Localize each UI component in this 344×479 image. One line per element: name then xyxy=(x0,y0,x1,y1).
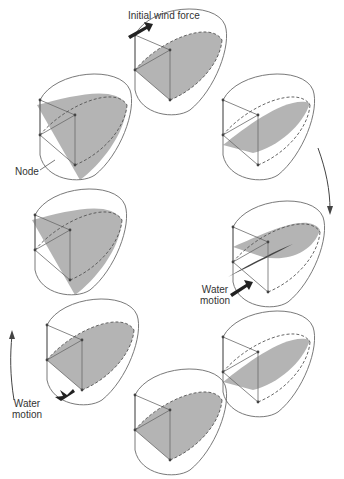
basin-left xyxy=(32,189,127,295)
water-motion-right-line1: Water xyxy=(200,284,230,295)
basin-upper-right xyxy=(222,74,315,180)
water-motion-right-label: Water motion xyxy=(200,284,230,306)
basin-lower-left xyxy=(46,299,139,405)
node-label: Node xyxy=(15,166,39,177)
water-motion-left-line1: Water xyxy=(12,398,42,409)
wind-arrow-icon xyxy=(128,22,153,39)
rotation-arrow-left-icon xyxy=(11,335,14,400)
basin-upper-left xyxy=(37,74,132,180)
rotation-arrow-right-icon xyxy=(318,148,330,210)
basin-right xyxy=(228,201,325,307)
basin-lower-right xyxy=(222,311,315,417)
basin-bottom xyxy=(134,369,227,475)
water-motion-left-line2: motion xyxy=(12,409,42,420)
water-motion-right-line2: motion xyxy=(200,295,230,306)
seiche-diagram xyxy=(0,0,344,479)
wind-label: Initial wind force xyxy=(128,10,200,21)
water-motion-left-label: Water motion xyxy=(12,398,42,420)
water-arrow-left-icon xyxy=(55,389,75,401)
